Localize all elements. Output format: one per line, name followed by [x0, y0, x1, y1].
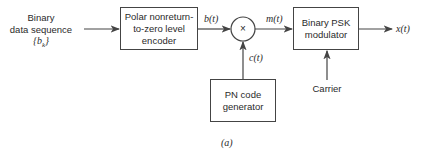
psk-line1: Binary PSK [302, 17, 351, 29]
input-line2: data sequence [2, 24, 80, 36]
figure-caption: (a) [221, 137, 233, 149]
input-line3: {bk} [2, 35, 80, 52]
pn-generator-block: PN code generator [210, 79, 276, 122]
encoder-block: Polar nonreturn- to-zero level encoder [120, 7, 198, 50]
signal-m-label: m(t) [266, 13, 283, 25]
multiplier-symbol: × [237, 23, 249, 35]
pn-line2: generator [223, 101, 264, 113]
encoder-line1: Polar nonreturn- [125, 11, 194, 23]
psk-line2: modulator [302, 29, 351, 41]
carrier-label: Carrier [307, 83, 347, 95]
input-line1: Binary [2, 12, 80, 24]
encoder-line2: to-zero level [125, 23, 194, 35]
encoder-line3: encoder [125, 35, 194, 47]
signal-c-label: c(t) [249, 52, 263, 64]
psk-modulator-block: Binary PSK modulator [293, 7, 359, 50]
signal-x-label: x(t) [396, 23, 410, 35]
input-label: Binary data sequence {bk} [2, 12, 80, 52]
signal-b-label: b(t) [204, 13, 218, 25]
pn-line1: PN code [223, 89, 264, 101]
